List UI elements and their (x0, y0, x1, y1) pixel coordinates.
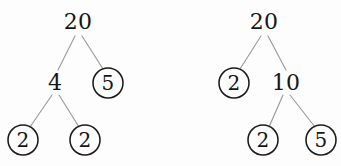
factor-trees-canvas: 2045222021025 (0, 0, 341, 166)
nodes-layer: 2045222021025 (8, 9, 336, 155)
factor-tree-right-nodes: 2021025 (219, 9, 336, 155)
tree-node: 4 (48, 70, 62, 95)
tree-node-circled: 2 (248, 125, 278, 155)
tree-node: 20 (250, 9, 278, 34)
factor-tree-left-nodes: 204522 (8, 9, 123, 155)
tree-edge (290, 95, 315, 127)
node-value-label: 10 (272, 70, 300, 95)
node-value-label: 5 (102, 71, 115, 95)
factor-tree-figure: 2045222021025 (0, 0, 341, 166)
node-value-label: 5 (315, 128, 328, 152)
factor-tree-left-edges (30, 36, 103, 127)
tree-edge (268, 36, 286, 70)
tree-node-circled: 2 (8, 125, 38, 155)
tree-node-circled: 5 (306, 125, 336, 155)
tree-node-circled: 5 (93, 68, 123, 98)
node-value-label: 2 (79, 128, 92, 152)
node-value-label: 20 (64, 9, 92, 34)
tree-edge (82, 36, 103, 69)
tree-node: 20 (64, 9, 92, 34)
node-value-label: 2 (228, 71, 241, 95)
node-value-label: 2 (257, 128, 270, 152)
tree-node-circled: 2 (219, 68, 249, 98)
tree-edge (240, 36, 261, 69)
tree-node-circled: 2 (70, 125, 100, 155)
node-value-label: 20 (250, 9, 278, 34)
tree-edge (58, 36, 75, 70)
tree-edge (30, 95, 52, 127)
node-value-label: 2 (17, 128, 30, 152)
tree-node: 10 (272, 70, 300, 95)
tree-edge (269, 95, 283, 127)
node-value-label: 4 (48, 70, 62, 95)
tree-edge (59, 95, 79, 127)
